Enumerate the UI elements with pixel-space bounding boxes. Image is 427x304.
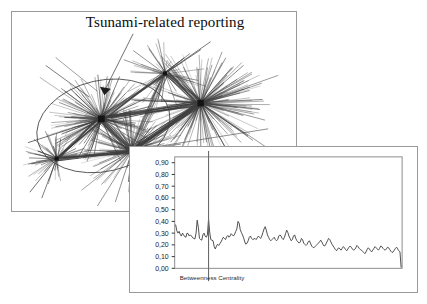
y-axis-tick-label: 0,10 bbox=[155, 253, 169, 260]
y-axis-tick-labels: 0,000,100,200,300,400,500,600,700,800,90 bbox=[155, 159, 169, 272]
chart-figure-panel: 0,000,100,200,300,400,500,600,700,800,90… bbox=[129, 146, 418, 293]
y-axis-tick-label: 0,20 bbox=[155, 241, 169, 248]
y-axis-tick-label: 0,90 bbox=[155, 159, 169, 166]
y-axis-tick-label: 0,30 bbox=[155, 230, 169, 237]
y-axis-tick-label: 0,50 bbox=[155, 206, 169, 213]
y-axis-tick-label: 0,00 bbox=[155, 265, 169, 272]
page-title: Tsunami-related reporting bbox=[12, 14, 296, 31]
network-hub-node bbox=[197, 100, 203, 106]
x-axis-label: Betweenness Centrality bbox=[180, 274, 246, 281]
y-axis-tick-label: 0,80 bbox=[155, 171, 169, 178]
network-hub-node bbox=[55, 157, 59, 161]
betweenness-centrality-chart: 0,000,100,200,300,400,500,600,700,800,90… bbox=[130, 147, 417, 292]
leader-line bbox=[104, 34, 133, 91]
y-axis-tick-label: 0,60 bbox=[155, 195, 169, 202]
y-axis-tick-label: 0,40 bbox=[155, 218, 169, 225]
title-leader-annotation bbox=[100, 34, 133, 95]
figure-root: Tsunami-related reporting 0,000,100,200,… bbox=[0, 0, 427, 304]
network-hub-node bbox=[163, 71, 167, 75]
network-hub-node bbox=[98, 116, 105, 123]
y-axis-tick-label: 0,70 bbox=[155, 183, 169, 190]
